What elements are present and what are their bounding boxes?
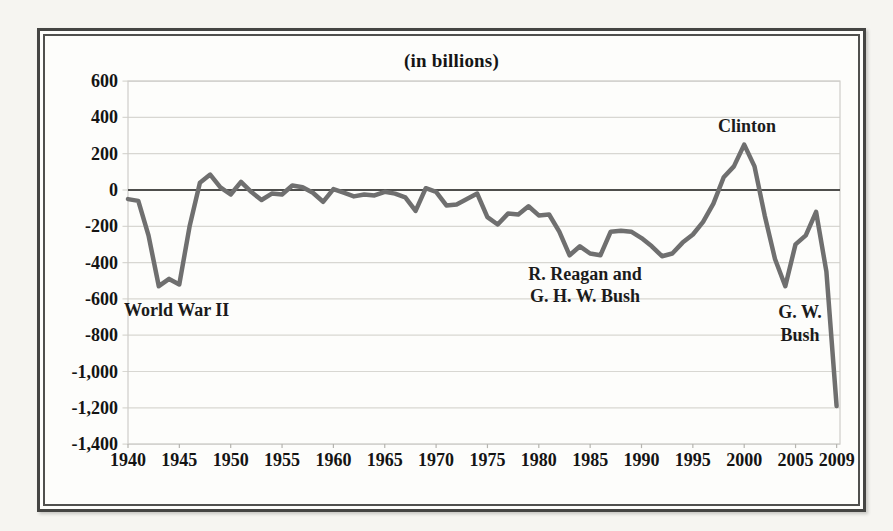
x-axis-label: 1960 [315, 450, 351, 470]
x-axis-label: 1940 [110, 450, 146, 470]
annotation-world-war-ii: World War II [124, 299, 229, 321]
annotation-text: Clinton [697, 115, 797, 137]
x-axis-label: 1995 [675, 450, 711, 470]
y-axis-label: -800 [85, 325, 118, 345]
annotation-clinton: Clinton [697, 115, 797, 137]
chart-title: (in billions) [37, 50, 866, 72]
annotation-text: World War II [124, 299, 229, 321]
y-axis-label: -200 [85, 216, 118, 236]
x-axis-label: 2005 [778, 450, 814, 470]
x-axis-label: 1990 [624, 450, 660, 470]
chart-canvas: 6004002000-200-400-600-800-1,000-1,200-1… [0, 0, 893, 531]
x-axis-label: 2000 [726, 450, 762, 470]
annotation-gw-bush: G. W. Bush [750, 301, 850, 347]
x-axis-label: 2009 [819, 450, 855, 470]
annotation-text: Bush [750, 324, 850, 347]
y-axis-label: -400 [85, 253, 118, 273]
y-axis-label: -600 [85, 289, 118, 309]
page: { "figure": { "title": "(in billions)", … [0, 0, 893, 531]
y-axis-label: -1,200 [72, 398, 119, 418]
y-axis-label: 600 [91, 71, 118, 91]
x-axis-label: 1985 [572, 450, 608, 470]
x-axis-label: 1980 [521, 450, 557, 470]
annotation-text: R. Reagan and [520, 263, 650, 285]
x-axis-label: 1955 [264, 450, 300, 470]
x-axis-label: 1945 [161, 450, 197, 470]
x-axis-label: 1965 [367, 450, 403, 470]
annotation-text: G. W. [750, 301, 850, 324]
x-axis-label: 1950 [213, 450, 249, 470]
y-axis-label: 0 [109, 180, 118, 200]
x-axis-label: 1970 [418, 450, 454, 470]
annotation-reagan-bush: R. Reagan and G. H. W. Bush [520, 263, 650, 307]
y-axis-label: 200 [91, 144, 118, 164]
y-axis-label: 400 [91, 107, 118, 127]
y-axis-label: -1,000 [72, 362, 119, 382]
deficit-series-line [128, 145, 837, 406]
annotation-text: G. H. W. Bush [520, 285, 650, 307]
x-axis-label: 1975 [469, 450, 505, 470]
